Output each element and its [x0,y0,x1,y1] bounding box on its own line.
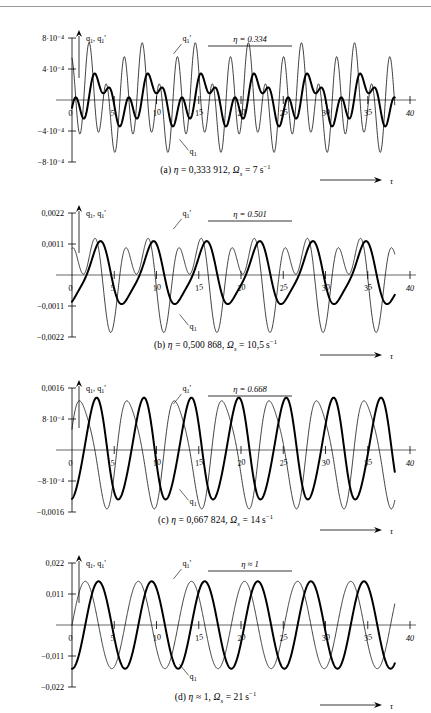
svg-text:40: 40 [406,284,414,293]
curve-label-displacement: q1 [190,322,197,332]
caption-eta-symbol: η [171,515,176,525]
curve-label-displacement: q1 [190,672,197,682]
svg-text:25: 25 [279,282,289,293]
svg-text:0: 0 [67,633,73,643]
caption-eta-symbol: η [168,340,173,350]
eta-annotation-text: η ≈ 1 [241,559,259,569]
chart-panel-a: 8·10⁻⁴4·10⁻⁴−4·10⁻⁴−8·10⁻⁴05101520253035… [0,10,431,188]
caption-omega-subscript: s [220,697,223,704]
curve-label-displacement: q1 [190,147,197,157]
svg-text:40: 40 [406,109,414,118]
svg-text:35: 35 [362,282,373,293]
chart-caption-b: (b) η = 0,500 868, Ωs = 10,5 s−1 [0,338,431,352]
figure-page: 8·10⁻⁴4·10⁻⁴−4·10⁻⁴−8·10⁻⁴05101520253035… [0,0,431,713]
caption-omega-symbol: Ω [233,165,240,175]
svg-text:−0,011: −0,011 [41,652,64,661]
svg-text:0: 0 [67,458,73,468]
svg-text:0: 0 [67,108,73,118]
svg-text:0,0011: 0,0011 [42,240,64,249]
curve-label-velocity: q1′ [182,209,191,219]
caption-index: (d) [175,692,186,702]
svg-text:q1, q1′: q1, q1′ [86,559,106,569]
eta-annotation-text: η = 0.668 [233,384,267,394]
svg-text:0,0022: 0,0022 [41,209,64,218]
chart-caption-d: (d) η ≈ 1, Ωs = 21 s−1 [0,690,431,704]
svg-text:q1, q1′: q1, q1′ [86,384,106,394]
caption-eta-value: ≈ 1 [196,692,209,702]
caption-index: (c) [158,515,169,525]
svg-text:20: 20 [236,457,246,468]
caption-eta-symbol: η [174,165,179,175]
svg-text:−4·10⁻⁴: −4·10⁻⁴ [38,127,65,136]
svg-text:0,0016: 0,0016 [41,384,64,393]
svg-text:4·10⁻⁴: 4·10⁻⁴ [42,65,64,74]
caption-eta-symbol: η [189,692,194,702]
caption-eta-value: = 0,333 912 [181,165,228,175]
caption-eta-value: = 0,667 824 [179,515,226,525]
caption-omega-value: = 14 s [242,515,265,525]
chart-panel-c: 0,00168·10⁻⁴−8·10⁻⁴−0,001605101520253035… [0,360,431,538]
svg-text:40: 40 [406,459,414,468]
svg-text:−8·10⁻⁴: −8·10⁻⁴ [38,477,65,486]
caption-omega-value: = 10,5 s [239,340,270,350]
caption-omega-symbol: Ω [227,340,234,350]
svg-text:q1, q1′: q1, q1′ [86,209,106,219]
svg-text:0,011: 0,011 [46,590,64,599]
chart-caption-a: (a) η = 0,333 912, Ωs = 7 s−1 [0,163,431,177]
curve-velocity [72,401,395,509]
svg-text:0: 0 [67,283,73,293]
caption-omega-subscript: s [240,170,243,177]
caption-omega-unit-exponent: −1 [263,163,270,170]
curve-label-velocity: q1′ [182,559,191,569]
page-header-rule [0,6,431,7]
curve-label-velocity: q1′ [182,34,191,44]
caption-eta-value: = 0,500 868 [175,340,222,350]
caption-omega-subscript: s [237,520,240,527]
svg-text:0,022: 0,022 [46,559,64,568]
caption-omega-subscript: s [234,345,237,352]
svg-text:15: 15 [194,282,204,293]
caption-omega-unit-exponent: −1 [249,690,256,697]
svg-text:15: 15 [194,107,204,118]
curve-label-displacement: q1 [190,497,197,507]
caption-index: (a) [160,165,171,175]
svg-text:40: 40 [406,634,414,643]
svg-text:8·10⁻⁴: 8·10⁻⁴ [42,34,64,43]
eta-annotation-text: η = 0.501 [233,209,267,219]
caption-omega-value: = 21 s [226,692,249,702]
caption-omega-unit-exponent: −1 [270,338,277,345]
curve-displacement [72,398,395,500]
caption-index: (b) [154,340,165,350]
caption-omega-unit-exponent: −1 [266,513,273,520]
svg-text:25: 25 [279,632,289,643]
svg-text:10: 10 [152,107,162,118]
curve-label-velocity: q1′ [182,384,191,394]
chart-caption-c: (c) η = 0,667 824, Ωs = 14 s−1 [0,513,431,527]
svg-text:30: 30 [320,457,331,468]
svg-text:−0,0011: −0,0011 [37,302,64,311]
chart-panel-d: 0,0220,011−0,011−0,0220510152025303540q1… [0,535,431,713]
chart-panel-b: 0,00220,0011−0,0011−0,002205101520253035… [0,185,431,363]
svg-text:8·10⁻⁴: 8·10⁻⁴ [42,415,64,424]
caption-omega-value: = 7 s [245,165,264,175]
svg-text:15: 15 [194,632,204,643]
eta-annotation-text: η = 0.334 [233,34,267,44]
